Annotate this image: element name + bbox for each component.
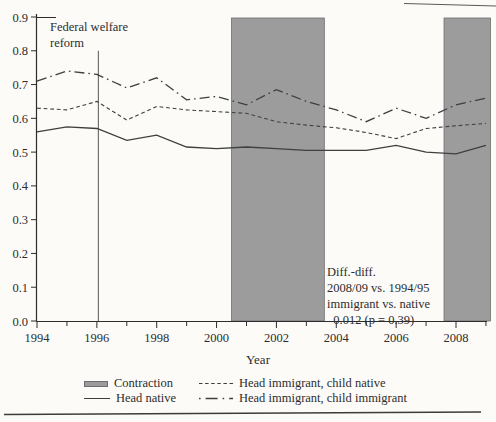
x-tick-label: 2008 [444, 331, 469, 345]
legend-item-head-immigrant-child-native: Head immigrant, child native [199, 376, 407, 391]
x-axis-title: Year [246, 352, 271, 367]
figure: 0.00.10.20.30.40.50.60.70.80.91994199619… [0, 0, 496, 422]
legend-column-1: Contraction Head native [84, 376, 176, 406]
dashdot-line-swatch [199, 395, 233, 402]
x-tick-label: 1998 [144, 331, 169, 345]
y-tick-label: 0.2 [12, 247, 28, 261]
legend-item-contraction: Contraction [84, 376, 176, 391]
chart-legend: Contraction Head native Head immigrant, … [0, 376, 496, 408]
y-tick-label: 0.9 [12, 11, 28, 25]
x-tick-label: 2004 [324, 331, 350, 345]
legend-label: Head native [116, 391, 176, 406]
diff-annotation-line3: immigrant vs. native [327, 297, 431, 311]
bottom-rule [4, 412, 481, 415]
y-tick-label: 0.7 [12, 78, 28, 92]
legend-label: Head immigrant, child native [239, 376, 385, 391]
x-tick-label: 1996 [84, 331, 109, 345]
x-tick-label: 1994 [25, 331, 51, 345]
x-tick-label: 2006 [384, 331, 409, 345]
contraction-band [444, 18, 490, 321]
reform-label-line2: reform [50, 36, 84, 50]
y-tick-label: 0.3 [12, 213, 28, 227]
dashed-line-swatch [199, 380, 233, 387]
contraction-band [232, 18, 325, 321]
legend-item-head-native: Head native [84, 391, 176, 406]
x-tick-label: 2000 [204, 331, 229, 345]
diff-annotation-line2: 2008/09 vs. 1994/95 [327, 281, 429, 295]
contraction-band-swatch [84, 381, 108, 387]
line-chart: 0.00.10.20.30.40.50.60.70.80.91994199619… [0, 0, 496, 422]
legend-label: Contraction [114, 376, 173, 391]
diff-annotation-line1: Diff.-diff. [327, 265, 376, 279]
y-tick-label: 0.8 [12, 44, 28, 58]
x-tick-label: 2002 [264, 331, 289, 345]
solid-line-swatch [84, 398, 110, 399]
y-tick-label: 0.0 [12, 315, 28, 329]
legend-label: Head immigrant, child immigrant [239, 391, 407, 406]
y-tick-label: 0.6 [12, 112, 28, 126]
reform-label-line1: Federal welfare [50, 20, 129, 34]
legend-item-head-immigrant-child-immigrant: Head immigrant, child immigrant [199, 391, 407, 406]
page-edge-artifact-line [404, 4, 496, 7]
y-tick-label: 0.4 [12, 179, 28, 193]
y-tick-label: 0.1 [12, 281, 28, 295]
legend-column-2: Head immigrant, child native Head immigr… [199, 376, 407, 406]
diff-annotation-line4: –0.012 (p = 0.39) [326, 313, 414, 327]
y-tick-label: 0.5 [12, 146, 28, 160]
